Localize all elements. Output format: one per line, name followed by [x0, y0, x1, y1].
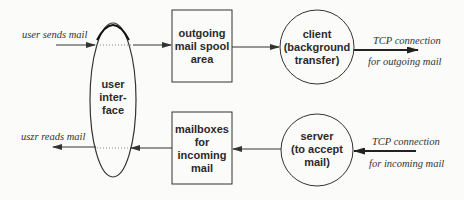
diagram-svg: user inter- face outgoing mail spool are… — [0, 0, 464, 200]
ui-label-1: user — [101, 78, 125, 90]
outgoing-label-1: outgoing — [178, 27, 225, 39]
outgoing-label-3: area — [191, 53, 215, 65]
server-node: server (to accept mail) — [281, 114, 353, 186]
label-user-reads-mail: uszr reads mail — [21, 131, 85, 142]
outgoing-label-2: mail spool — [175, 40, 229, 52]
ui-label-2: inter- — [99, 91, 127, 103]
label-user-sends-mail: user sends mail — [22, 29, 87, 40]
label-tcp-in-2: for incoming mail — [369, 158, 444, 169]
label-tcp-out-1: TCP connection — [373, 35, 441, 46]
server-label-2: (to accept — [291, 143, 343, 155]
mailboxes-label-4: mail — [191, 162, 213, 174]
client-label-2: (background — [284, 41, 351, 53]
outgoing-spool-node: outgoing mail spool area — [172, 10, 232, 82]
mailboxes-node: mailboxes for incoming mail — [172, 112, 232, 184]
user-interface-node: user inter- face — [90, 23, 136, 177]
label-tcp-out-2: for outgoing mail — [368, 56, 442, 67]
mailboxes-label-2: for — [195, 136, 210, 148]
mail-system-diagram: user inter- face outgoing mail spool are… — [0, 0, 464, 200]
mailboxes-label-3: incoming — [178, 149, 227, 161]
server-label-1: server — [300, 130, 334, 142]
client-label-3: transfer) — [295, 54, 340, 66]
ui-label-3: face — [102, 104, 124, 116]
label-tcp-in-1: TCP connection — [372, 136, 440, 147]
client-label-1: client — [303, 28, 332, 40]
server-label-3: mail) — [304, 156, 330, 168]
mailboxes-label-1: mailboxes — [175, 123, 229, 135]
client-node: client (background transfer) — [280, 10, 354, 84]
